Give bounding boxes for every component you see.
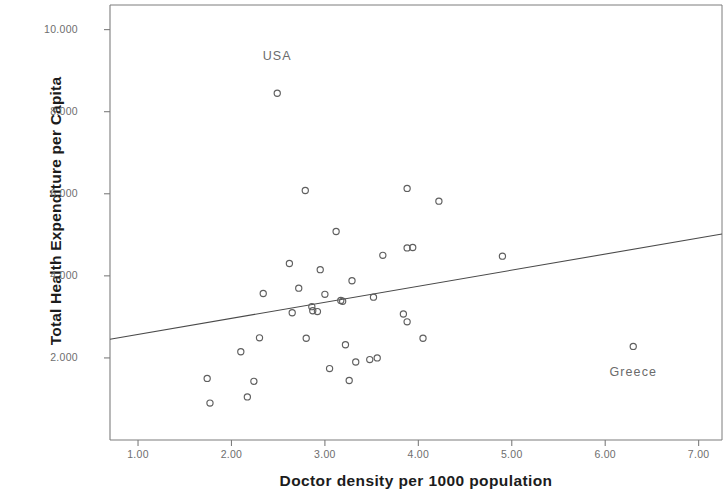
x-tick-label: 5.00 <box>487 448 537 460</box>
data-point <box>367 356 373 362</box>
point-label-usa: USA <box>217 49 337 63</box>
x-tick-label: 6.00 <box>580 448 630 460</box>
data-point <box>317 267 323 273</box>
data-point <box>404 319 410 325</box>
point-label-greece: Greece <box>573 365 693 379</box>
plot-canvas <box>0 0 724 498</box>
data-point <box>349 278 355 284</box>
x-tick-label: 2.00 <box>206 448 256 460</box>
y-tick-label: 4.000 <box>50 269 78 281</box>
data-point <box>244 394 250 400</box>
y-tick-label: 6.000 <box>50 187 78 199</box>
data-point <box>303 335 309 341</box>
data-point <box>400 311 406 317</box>
y-axis-tick-labels: 2.0004.0006.0008.00010.000 <box>0 0 102 498</box>
data-point <box>353 359 359 365</box>
data-point <box>436 198 442 204</box>
data-point <box>333 228 339 234</box>
x-axis-title: Doctor density per 1000 population <box>110 472 722 490</box>
data-point <box>296 285 302 291</box>
trendline <box>110 234 722 339</box>
data-point <box>380 252 386 258</box>
data-point <box>251 378 257 384</box>
data-point <box>302 187 308 193</box>
data-point <box>346 377 352 383</box>
data-point <box>286 260 292 266</box>
data-points <box>204 90 636 406</box>
y-tick-label: 8.000 <box>50 105 78 117</box>
data-point <box>289 310 295 316</box>
y-tick-label: 2.000 <box>50 351 78 363</box>
regression-line <box>110 234 722 339</box>
data-point <box>274 90 280 96</box>
data-point <box>374 355 380 361</box>
axis-ticks <box>104 30 699 446</box>
data-point <box>326 365 332 371</box>
scatter-plot-figure: Total Health Expenditure per Capita Doct… <box>0 0 724 498</box>
data-point <box>370 294 376 300</box>
data-point <box>260 290 266 296</box>
y-tick-label: 10.000 <box>44 23 78 35</box>
data-point <box>238 349 244 355</box>
data-point <box>630 343 636 349</box>
data-point <box>499 253 505 259</box>
data-point <box>420 335 426 341</box>
data-point <box>342 342 348 348</box>
data-point <box>404 185 410 191</box>
data-point <box>256 335 262 341</box>
x-tick-label: 7.00 <box>674 448 724 460</box>
x-tick-label: 1.00 <box>113 448 163 460</box>
x-tick-label: 3.00 <box>300 448 350 460</box>
data-point <box>204 375 210 381</box>
data-point <box>322 291 328 297</box>
x-tick-label: 4.00 <box>393 448 443 460</box>
data-point <box>207 400 213 406</box>
